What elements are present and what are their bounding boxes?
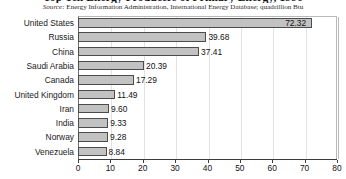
bar — [78, 75, 134, 85]
bar-rows: United States72.32Russia39.68China37.41S… — [0, 0, 346, 179]
bar-value-label: 11.49 — [117, 88, 137, 102]
category-label: Russia — [0, 30, 74, 44]
category-label: Canada — [0, 73, 74, 87]
bar-row: Norway9.28 — [0, 130, 346, 144]
bar-value-label: 9.33 — [110, 116, 126, 130]
bar-row: Russia39.68 — [0, 30, 346, 44]
bar-value-label: 20.39 — [146, 59, 167, 73]
bar-row: Canada17.29 — [0, 73, 346, 87]
x-tick-label: 40 — [203, 163, 212, 173]
bar-row: United Kingdom11.49 — [0, 88, 346, 102]
bar — [78, 118, 108, 128]
x-tick-label: 60 — [268, 163, 277, 173]
x-tick-label: 70 — [300, 163, 309, 173]
bar-value-label: 37.41 — [201, 45, 222, 59]
x-tick-label: 50 — [235, 163, 244, 173]
bar-row: Iran9.60 — [0, 102, 346, 116]
category-label: Venezuela — [0, 145, 74, 159]
x-tick-label: 10 — [106, 163, 115, 173]
bar-value-label: 9.28 — [110, 130, 126, 144]
bar — [78, 147, 107, 157]
bar-chart: Top Ten Energy Producers of Primary Ener… — [0, 0, 346, 179]
bar — [78, 90, 115, 100]
category-label: Norway — [0, 130, 74, 144]
category-label: United States — [0, 16, 74, 30]
bar — [78, 61, 144, 71]
bar — [78, 104, 109, 114]
bar — [78, 132, 108, 142]
bar-value-label: 8.84 — [109, 145, 125, 159]
bar-value-label: 17.29 — [136, 73, 157, 87]
category-label: Iran — [0, 102, 74, 116]
bar-row: China37.41 — [0, 45, 346, 59]
x-tick-label: 30 — [170, 163, 179, 173]
bar-row: Venezuela8.84 — [0, 145, 346, 159]
bar — [78, 47, 199, 57]
x-tick-label: 20 — [138, 163, 147, 173]
bar-value-label: 72.32 — [285, 16, 306, 30]
x-tick-label: 80 — [332, 163, 341, 173]
bar-value-label: 9.60 — [111, 102, 127, 116]
category-label: Saudi Arabia — [0, 59, 74, 73]
bar — [78, 18, 312, 28]
x-tick-label: 0 — [76, 163, 81, 173]
bar — [78, 32, 206, 42]
bar-row: Saudi Arabia20.39 — [0, 59, 346, 73]
x-axis-ticks: 01020304050607080 — [78, 160, 337, 174]
bar-value-label: 39.68 — [208, 30, 229, 44]
bar-row: United States72.32 — [0, 16, 346, 30]
category-label: India — [0, 116, 74, 130]
category-label: China — [0, 45, 74, 59]
category-label: United Kingdom — [0, 88, 74, 102]
bar-row: India9.33 — [0, 116, 346, 130]
